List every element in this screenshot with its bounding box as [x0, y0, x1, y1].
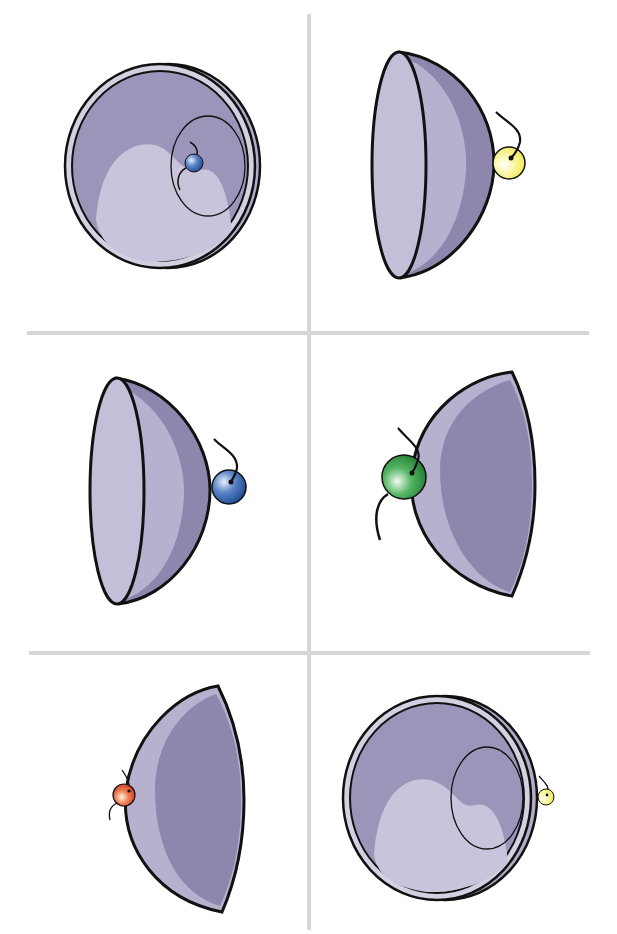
panel-4-back-hemisphere-green — [376, 372, 535, 596]
panel-2-side-hemisphere-yellow — [372, 52, 525, 278]
figure-canvas — [0, 0, 617, 934]
panel-3-side-hemisphere-blue — [90, 378, 246, 604]
panel-5-back-hemisphere-red — [109, 686, 244, 912]
panel-1-open-hemisphere-blue — [65, 64, 260, 268]
vertical-divider — [307, 14, 311, 930]
horizontal-divider-bottom — [29, 651, 590, 655]
panel-6-open-hemisphere-yellow — [343, 696, 554, 900]
horizontal-divider-top — [27, 331, 589, 335]
